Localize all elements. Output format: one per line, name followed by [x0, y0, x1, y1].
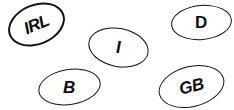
- oval-label-d: D: [195, 14, 207, 31]
- oval-sticker-irl: IRL: [1, 0, 71, 55]
- sticker-canvas: IRL I D B GB: [0, 0, 234, 110]
- oval-sticker-gb: GB: [154, 59, 229, 110]
- oval-label-irl: IRL: [21, 12, 51, 37]
- oval-label-gb: GB: [177, 75, 205, 97]
- oval-sticker-b: B: [36, 64, 104, 109]
- oval-sticker-i: I: [85, 23, 152, 73]
- oval-label-i: I: [116, 40, 121, 57]
- oval-sticker-d: D: [170, 2, 234, 42]
- oval-label-b: B: [63, 79, 75, 96]
